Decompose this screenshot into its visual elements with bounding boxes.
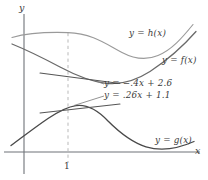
x-axis-label: x [195,146,201,156]
x-tick-label-1: 1 [64,162,70,171]
curve-label-h: y = h(x) [129,29,166,38]
curve-label-f: y = f(x) [162,56,197,65]
curve-label-g: y = g(x) [155,136,192,145]
tangent-equation-g: y = .26x + 1.1 [104,91,171,100]
y-axis-label: y [19,3,25,13]
tangent-equation-f: y = −.4x + 2.6 [104,79,172,88]
leader-tangent-g [74,96,104,106]
graph-figure: y x 1 y = h(x) y = f(x) y = g(x) y = −.4… [0,0,208,180]
